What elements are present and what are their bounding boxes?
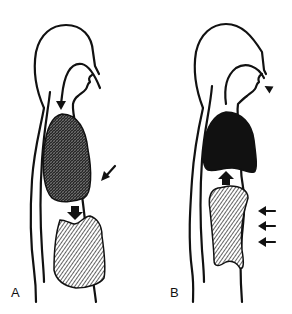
panel-a-inspiration: [31, 25, 115, 302]
body-outline-back-a: [35, 25, 99, 108]
panel-b-expiration: [190, 24, 275, 302]
spine-outer-a: [31, 108, 44, 302]
body-outline-back-b: [195, 24, 266, 108]
lungs-compressed-b: [203, 112, 256, 172]
abdomen-b: [209, 186, 248, 268]
panel-label-b: B: [170, 285, 179, 300]
chest-wall-arrow-icon: [101, 166, 115, 181]
diaphragm-arrow-down-icon: [67, 206, 83, 220]
airway-inflow-a: [61, 64, 100, 104]
abdomen-a: [54, 216, 105, 288]
airflow-arrowhead-down-icon: [56, 101, 66, 110]
abdominal-wall-arrows-icon: [258, 206, 275, 247]
airflow-arrowhead-out-icon: [263, 83, 274, 94]
lungs-expanded-a: [43, 114, 90, 202]
diaphragm-arrow-up-icon: [218, 171, 234, 185]
panel-label-a: A: [11, 285, 20, 300]
breathing-diagram: [0, 0, 292, 314]
